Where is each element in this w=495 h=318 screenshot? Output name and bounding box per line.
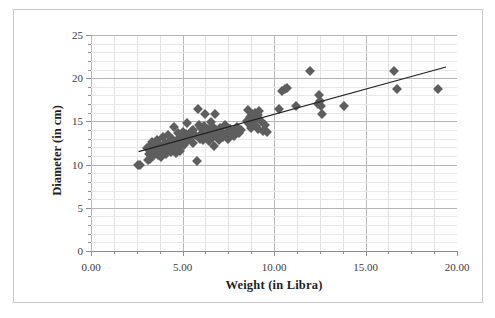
- figure-border: 0510152025 0.005.0010.0015.0020.00 Weigh…: [13, 9, 483, 303]
- x-axis-tick-labels: 0.005.0010.0015.0020.00: [91, 254, 457, 274]
- y-axis-tick-label: 0: [78, 245, 84, 257]
- y-axis-tick-label: 10: [72, 159, 83, 171]
- trend-line: [91, 35, 457, 251]
- x-axis-title: Weight (in Libra): [91, 278, 457, 293]
- x-axis-tick: [457, 251, 458, 256]
- plot-area: [91, 35, 457, 251]
- y-axis-title: Diameter (in cm): [50, 66, 65, 236]
- x-axis-tick-label: 0.00: [81, 261, 100, 273]
- x-axis-tick-label: 5.00: [173, 261, 192, 273]
- chart-figure: 0510152025 0.005.0010.0015.0020.00 Weigh…: [0, 0, 495, 318]
- y-axis-tick-label: 15: [72, 115, 83, 127]
- x-axis-tick-label: 15.00: [353, 261, 378, 273]
- x-axis-tick-label: 20.00: [445, 261, 470, 273]
- y-axis-tick-label: 5: [78, 202, 84, 214]
- y-axis-tick-label: 20: [72, 72, 83, 84]
- x-axis-tick-label: 10.00: [262, 261, 287, 273]
- y-axis-tick-label: 25: [72, 29, 83, 41]
